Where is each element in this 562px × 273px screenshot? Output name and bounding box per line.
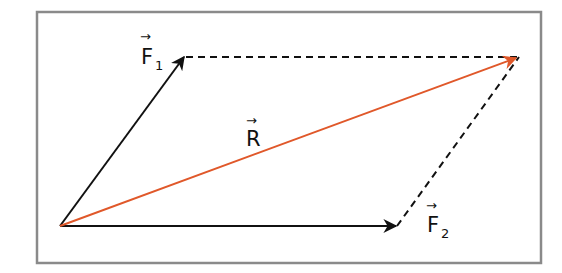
arrow-over-f2-icon: → [426, 198, 437, 213]
svg-text:F: F [427, 213, 439, 237]
arrow-over-f1-icon: → [140, 29, 151, 44]
label-resultant: → R [246, 113, 261, 151]
vector-diagram: → F 1 → R → F 2 [0, 0, 562, 273]
vector-f1 [60, 57, 184, 226]
svg-text:F: F [141, 45, 153, 69]
svg-text:1: 1 [155, 58, 163, 73]
vector-resultant [60, 58, 516, 226]
svg-text:2: 2 [441, 226, 449, 241]
arrow-over-r-icon: → [246, 113, 257, 128]
dashed-line-right [397, 57, 519, 226]
label-f1: → F 1 [140, 29, 163, 73]
label-f2: → F 2 [426, 198, 449, 241]
svg-text:R: R [246, 127, 261, 151]
